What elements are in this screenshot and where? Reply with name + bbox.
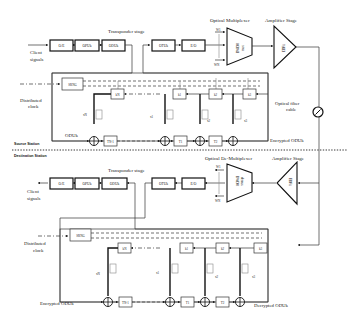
src-clock-label-2: clock [28,104,39,109]
src-client-label-2: signals [30,57,43,62]
dst-switch-x1: x1 [156,271,160,275]
svg-text:k3: k3 [248,93,252,97]
dst-srng: SRNG [70,229,91,241]
svg-text:SRNG: SRNG [68,83,77,87]
svg-text:TN-1: TN-1 [107,140,114,144]
source-station-label: Source Station [14,142,39,146]
svg-text:EDFA: EDFA [288,178,292,187]
src-clock-label-1: Distributed [20,98,42,103]
dst-demux-label: Optical De-Multiplexer [205,156,252,161]
svg-text:E/O: E/O [191,44,197,48]
dst-reg-k2: k2 [216,243,229,253]
svg-text:OPUk: OPUk [83,44,92,48]
svg-text:demux: demux [240,177,244,186]
src-eo-block: E/O [182,40,205,51]
svg-text:kN: kN [116,93,121,97]
dst-opu-block: OPUk [75,178,99,189]
svg-text:T2: T2 [221,301,225,305]
src-odu-block: ODUk [102,40,125,51]
dst-demux-output-w1: W1 [216,165,221,169]
dst-xor-3 [201,298,210,307]
src-xor-1 [90,137,99,146]
svg-text:k3: k3 [259,247,263,251]
optical-fiber-cable-line [296,47,319,245]
dst-delay-T1: T1 [181,297,194,307]
src-switch-xN: xN [83,113,88,117]
dst-reg-k1: k1 [180,243,193,253]
svg-text:OTUk: OTUk [159,182,168,186]
src-switch-x3: x3 [244,119,248,123]
svg-text:OTUk: OTUk [159,44,168,48]
src-optical-multiplexer: DWDM mux [227,28,252,65]
dst-demux-output-wn: WN [215,199,221,203]
dst-client-label-1: Client [27,189,39,194]
src-opu-block: OPUk [75,40,99,51]
src-xor-3 [196,137,205,146]
dst-switch-x3: x3 [252,275,256,279]
svg-text:mux: mux [241,45,245,51]
src-encryption-frame [52,73,268,141]
svg-text:SRNG: SRNG [76,234,85,238]
svg-text:TN-1: TN-1 [122,301,129,305]
otn-encryption-diagram: Transponder stage Client signals O/E OPU… [0,0,357,320]
src-odu-in-label: ODUk [65,133,78,138]
svg-text:ODUk: ODUk [109,44,119,48]
src-reg-k2: k2 [209,89,222,99]
svg-text:T1: T1 [179,140,183,144]
svg-text:EDFA: EDFA [282,43,286,52]
src-delay-T2: T2 [209,136,222,146]
destination-station-label: Destination Station [14,154,47,158]
src-xor-2 [161,137,170,146]
dst-delay-TN-1: TN-1 [119,297,132,307]
svg-text:O/E: O/E [59,182,66,186]
dst-clock-label-1: Distributed [24,241,46,246]
svg-text:ODUk: ODUk [110,182,120,186]
src-mux-input-wn: WN [214,63,220,67]
dst-amp-label: Amplifier Stage [272,156,305,161]
dst-oe-block: O/E [50,178,73,189]
fiber-meter-icon [313,107,323,117]
dst-client-label-2: signals [27,196,40,201]
dst-odu-block: ODUk [102,178,127,189]
src-srng: SRNG [62,78,83,90]
svg-text:O/E: O/E [59,44,66,48]
src-switch-x2: x2 [207,119,211,123]
svg-text:kN: kN [123,247,128,251]
src-delay-T1: T1 [174,136,187,146]
src-reg-k1: k1 [173,89,186,99]
svg-text:OPUk: OPUk [83,182,92,186]
src-xor-4 [229,137,238,146]
dst-reg-kN: kN [118,243,131,253]
svg-text:E/O: E/O [191,182,197,186]
dst-decrypted-out-label: Decrypted ODUk [254,303,289,308]
fiber-label-2: cable [286,107,296,112]
src-amplifier: EDFA [274,26,296,68]
dst-switch-xN: xN [96,272,101,276]
src-otu-block: OTUk [152,40,175,51]
dst-xor-2 [166,298,175,307]
src-mux-input-w1: W1 [216,28,221,32]
dst-eo-block: E/O [182,178,205,189]
src-oe-block: O/E [50,40,73,51]
dst-clock-label-2: clock [33,248,44,253]
dst-switch-x2: x2 [215,275,219,279]
dst-otu-block: OTUk [152,178,175,189]
svg-text:DWDM: DWDM [235,176,239,187]
svg-text:k1: k1 [185,247,189,251]
src-client-label-1: Client [30,50,42,55]
dst-xor-4 [236,298,245,307]
svg-text:T2: T2 [214,140,218,144]
svg-text:k1: k1 [178,93,182,97]
dst-reg-k3: k3 [254,243,267,253]
src-mux-label: Optical Multiplexer [210,18,250,23]
svg-text:DWDM: DWDM [236,42,240,53]
src-reg-kN: kN [111,89,124,99]
dst-amplifier: EDFA [277,162,297,204]
svg-text:T1: T1 [186,301,190,305]
fiber-label-1: Optical fiber [275,101,300,106]
src-reg-k3: k3 [243,89,256,99]
src-transponder-label: Transponder stage [108,29,145,34]
src-amp-label: Amplifier Stage [265,18,298,23]
dst-transponder-label: Transponder stage [108,168,145,173]
src-delay-TN-1: TN-1 [104,136,117,146]
